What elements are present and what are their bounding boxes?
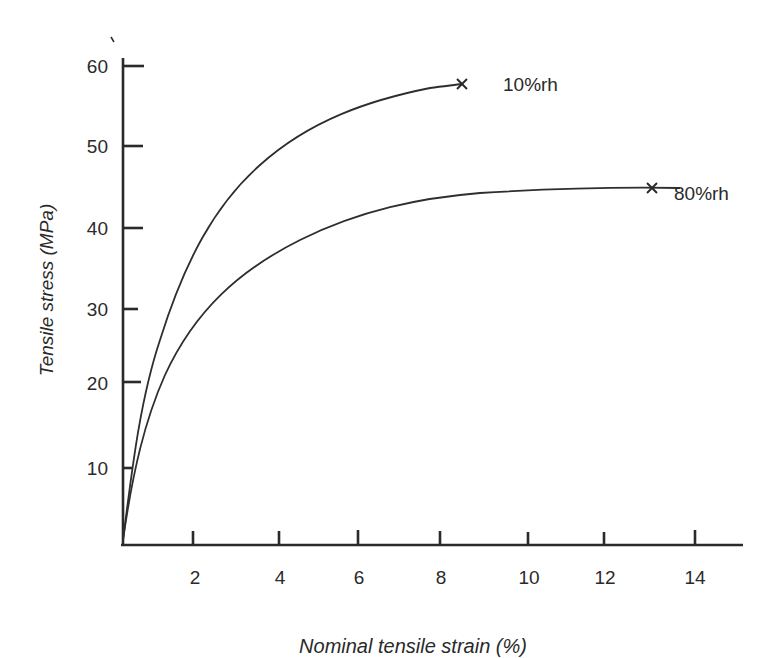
stress-strain-chart: 60 50 40 30 20 10 2 4 6 8 10 12 14 Tensi…	[0, 0, 779, 658]
x-tick-label: 2	[190, 567, 201, 588]
x-axis-title: Nominal tensile strain (%)	[299, 635, 527, 657]
x-tick-label: 10	[518, 567, 539, 588]
curve-80-rh	[123, 188, 680, 540]
y-tick-label: 50	[87, 136, 108, 157]
y-axis-title: Tensile stress (MPa)	[36, 204, 57, 376]
x-ticks	[193, 530, 695, 545]
x-tick-label: 14	[684, 567, 706, 588]
y-tick-label: 10	[87, 458, 108, 479]
y-tick-label: 40	[87, 218, 108, 239]
series-label-10-rh: 10%rh	[503, 74, 558, 95]
y-tick-label: 30	[87, 299, 108, 320]
y-tick-label: 20	[87, 373, 108, 394]
x-tick-label: 6	[354, 567, 365, 588]
y-tick-label: 60	[87, 56, 108, 77]
x-tick-label: 12	[594, 567, 615, 588]
series-label-80-rh: 80%rh	[674, 183, 729, 204]
y-ticks	[123, 66, 144, 468]
x-tick-labels: 2 4 6 8 10 12 14	[190, 567, 706, 588]
y-tick-labels: 60 50 40 30 20 10	[87, 56, 108, 479]
curve-10-rh	[123, 84, 462, 540]
x-tick-label: 4	[275, 567, 286, 588]
stray-mark	[111, 37, 114, 42]
x-tick-label: 8	[436, 567, 447, 588]
